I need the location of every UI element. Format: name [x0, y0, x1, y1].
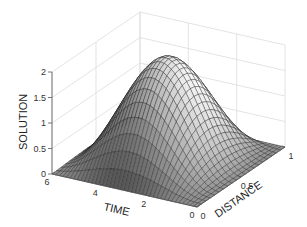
y-axis-label: TIME — [103, 200, 131, 218]
grid-line — [140, 12, 285, 45]
surface-plot: 00.511.52024600.51 SOLUTION TIME DISTANC… — [0, 0, 307, 227]
x-tick-label: 0 — [200, 211, 205, 221]
z-tick-label: 0.5 — [33, 144, 46, 154]
y-tick-label: 2 — [141, 199, 146, 209]
z-tick-label: 1.5 — [33, 93, 46, 103]
z-tick-label: 2 — [41, 67, 46, 77]
y-tick-label: 0 — [189, 210, 194, 220]
z-axis-label: SOLUTION — [17, 94, 29, 150]
z-tick-label: 1 — [41, 118, 46, 128]
y-tick-label: 6 — [44, 177, 49, 187]
y-tick-label: 4 — [93, 188, 98, 198]
x-tick-label: 1 — [288, 151, 293, 161]
